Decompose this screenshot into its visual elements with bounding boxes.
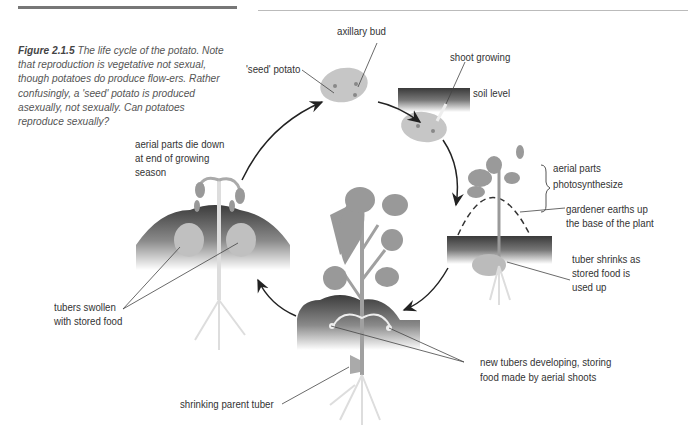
label-gardener-2: the base of the plant: [566, 216, 654, 230]
label-tuber-shrinks-2: stored food is: [572, 266, 630, 280]
label-parent-tuber: shrinking parent tuber: [180, 397, 274, 411]
seed-potato-illustration: [317, 63, 371, 106]
label-die-down-3: season: [135, 165, 166, 179]
mature-plant-illustration: [297, 187, 420, 425]
dying-plant-illustration: [136, 178, 290, 350]
label-seed-potato: 'seed' potato: [246, 62, 300, 76]
label-shoot-growing: shoot growing: [450, 50, 510, 64]
label-gardener-1: gardener earths up: [566, 202, 648, 216]
label-new-tubers-1: new tubers developing, storing: [480, 355, 611, 369]
label-die-down-2: at end of growing: [135, 151, 209, 165]
label-aerial-parts-2: photosynthesize: [553, 177, 623, 191]
growing-plant-illustration: [447, 145, 552, 305]
label-axillary-bud: axillary bud: [337, 24, 386, 38]
label-new-tubers-2: food made by aerial shoots: [480, 370, 596, 384]
label-tuber-shrinks-3: used up: [572, 280, 606, 294]
label-die-down-1: aerial parts die down: [135, 137, 224, 151]
label-soil-level: soil level: [473, 86, 510, 100]
label-tubers-swollen-2: with stored food: [54, 314, 122, 328]
label-tuber-shrinks-1: tuber shrinks as: [572, 252, 640, 266]
shoot-growing-illustration: [398, 88, 470, 145]
label-aerial-parts-1: aerial parts: [553, 161, 601, 175]
label-tubers-swollen-1: tubers swollen: [54, 300, 116, 314]
